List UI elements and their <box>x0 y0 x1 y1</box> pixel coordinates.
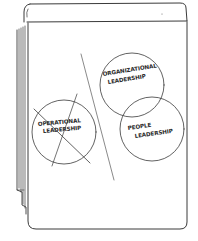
strike-line-1 <box>34 109 90 163</box>
people-leadership-circle: PEOPLE LEADERSHIP <box>120 97 184 161</box>
operational-leadership-circle: OPERATIONAL LEADERSHIP <box>32 94 96 166</box>
organizational-leadership-circle: ORGANIZATIONAL LEADERSHIP <box>100 53 164 117</box>
people-label-line1: PEOPLE <box>127 122 151 131</box>
people-label-line2: LEADERSHIP <box>134 128 173 139</box>
top-binding <box>24 3 187 22</box>
stacked-page-edges <box>17 26 26 214</box>
flipchart-sketch: OPERATIONAL LEADERSHIP ORGANIZATIONAL LE… <box>0 0 198 241</box>
